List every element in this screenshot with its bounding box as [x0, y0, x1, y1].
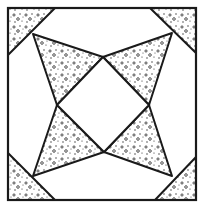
- quilt-block-diagram: [0, 0, 201, 208]
- quilt-block-svg: [0, 0, 201, 208]
